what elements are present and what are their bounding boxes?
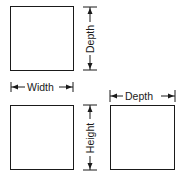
depth-label-horizontal: Depth [124,91,154,102]
arrow-left-icon [12,85,18,90]
arrow-up-icon [88,106,93,112]
arrow-up-icon [88,8,93,14]
width-label: Width [26,82,55,93]
arrow-left-icon [111,94,117,99]
depth-label-vertical: Depth [85,23,96,53]
height-label-vertical: Height [85,121,96,153]
arrow-right-icon [66,85,72,90]
arrow-down-icon [88,63,93,69]
arrow-right-icon [168,94,174,99]
arrow-down-icon [88,163,93,169]
